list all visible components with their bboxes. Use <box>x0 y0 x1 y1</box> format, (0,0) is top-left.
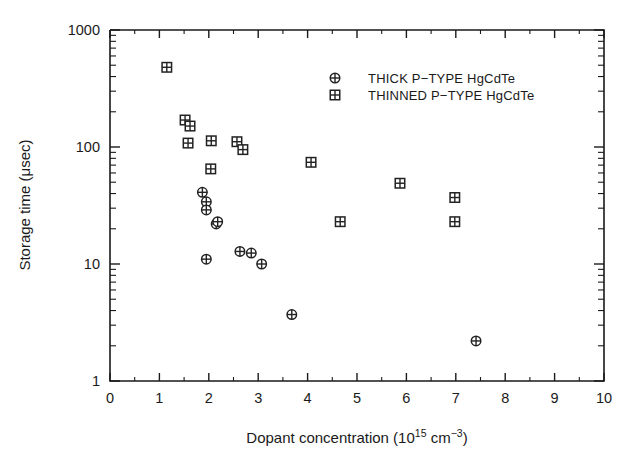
y-tick-label: 10 <box>84 256 100 272</box>
x-tick-label: 9 <box>551 390 559 406</box>
x-tick-label: 2 <box>205 390 213 406</box>
x-tick-label: 10 <box>596 390 612 406</box>
data-point <box>213 217 223 227</box>
y-tick-label: 1 <box>92 373 100 389</box>
legend-marker <box>330 73 340 83</box>
data-point <box>202 254 212 264</box>
data-point <box>395 178 405 188</box>
data-point <box>335 217 345 227</box>
legend-marker <box>330 90 340 100</box>
scatter-chart-figure: 012345678910 1101001000 THICK P−TYPE HgC… <box>0 0 638 461</box>
data-point <box>247 248 257 258</box>
data-point <box>207 136 217 146</box>
x-tick-label: 1 <box>155 390 163 406</box>
x-axis-title: Dopant concentration (1015 cm−3) <box>246 427 467 446</box>
data-point <box>162 63 172 73</box>
x-tick-label: 7 <box>452 390 460 406</box>
data-point <box>183 138 193 148</box>
y-tick-label: 100 <box>76 139 100 155</box>
data-point <box>185 121 195 130</box>
data-point <box>206 164 216 174</box>
data-point <box>450 193 460 203</box>
x-tick-label: 3 <box>254 390 262 406</box>
plot-canvas: 012345678910 1101001000 THICK P−TYPE HgC… <box>0 0 638 461</box>
data-point <box>238 145 248 155</box>
data-point <box>202 205 212 215</box>
data-point <box>257 259 267 269</box>
x-tick-label: 4 <box>304 390 312 406</box>
data-point <box>306 158 316 168</box>
data-point <box>471 336 481 346</box>
legend-label: THINNED P−TYPE HgCdTe <box>368 88 534 103</box>
x-tick-label: 6 <box>402 390 410 406</box>
legend-label: THICK P−TYPE HgCdTe <box>368 71 515 86</box>
x-tick-label: 8 <box>501 390 509 406</box>
data-point <box>450 217 460 227</box>
data-point <box>287 310 297 320</box>
data-point <box>198 188 208 198</box>
x-tick-label: 5 <box>353 390 361 406</box>
x-tick-label: 0 <box>106 390 114 406</box>
y-tick-label: 1000 <box>68 22 100 38</box>
y-axis-title: Storage time (μsec) <box>16 139 33 270</box>
chart-background <box>0 0 638 461</box>
data-point <box>235 247 245 256</box>
